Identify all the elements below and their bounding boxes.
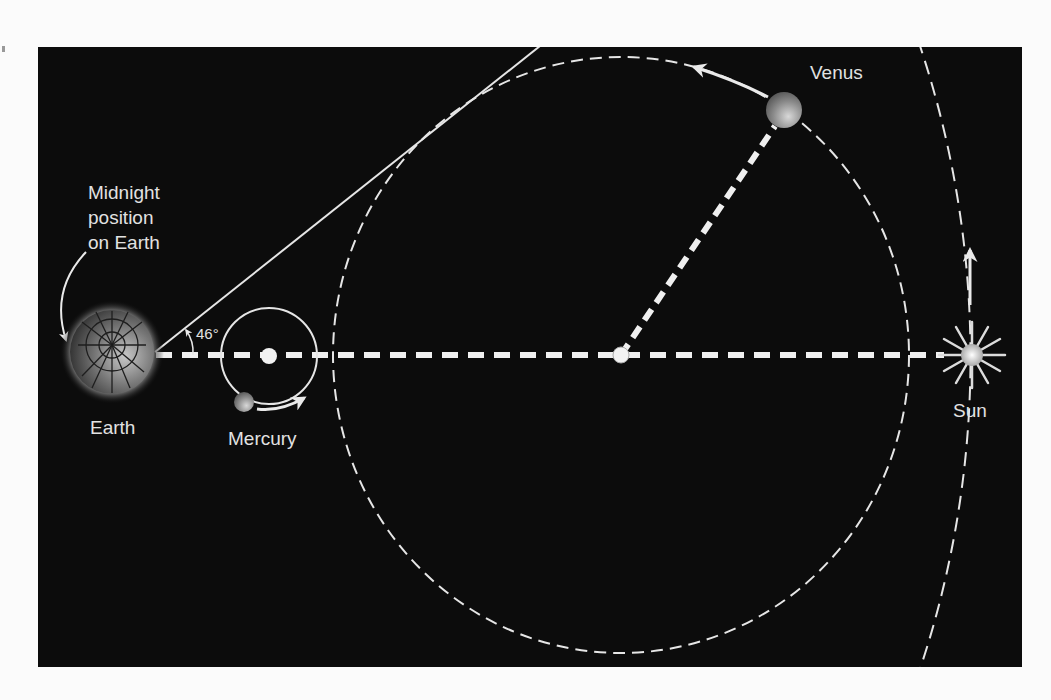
earth-icon xyxy=(60,300,164,404)
midnight-label: Midnight position on Earth xyxy=(88,180,160,255)
venus-planet xyxy=(766,92,802,128)
midnight-label-line-2: position xyxy=(88,205,160,230)
angle-arc xyxy=(186,330,193,355)
venus-orbit-center xyxy=(613,347,629,363)
venus-label: Venus xyxy=(810,60,863,85)
sun-label: Sun xyxy=(953,398,987,423)
angle-label: 46° xyxy=(196,325,219,342)
midnight-label-line-1: Midnight xyxy=(88,180,160,205)
venus-direction-arrow xyxy=(694,67,768,97)
sun-icon xyxy=(939,322,1005,388)
earth-label: Earth xyxy=(90,415,135,440)
mercury-label: Mercury xyxy=(228,426,297,451)
mercury-orbit-center xyxy=(261,348,277,364)
midnight-label-line-3: on Earth xyxy=(88,230,160,255)
mercury-planet xyxy=(234,392,254,412)
tangent-line xyxy=(155,42,545,352)
orbit-diagram xyxy=(0,0,1051,700)
venus-radius-line xyxy=(621,126,775,355)
